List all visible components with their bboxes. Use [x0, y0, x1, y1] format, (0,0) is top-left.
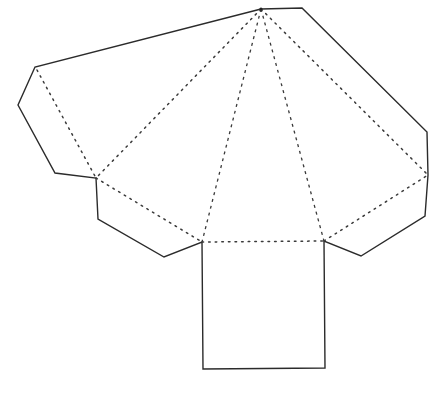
fold-line [324, 175, 428, 241]
fold-line [37, 70, 96, 178]
cut-line [18, 8, 428, 369]
fold-line [261, 9, 324, 241]
fold-line [96, 9, 261, 178]
fold-line [261, 9, 428, 175]
fold-line [202, 241, 324, 242]
fold-line [96, 178, 202, 242]
pyramid-net-diagram [0, 0, 438, 401]
fold-line [202, 9, 261, 242]
fold-lines [37, 9, 428, 242]
apex-point [259, 7, 262, 10]
cut-outline [18, 8, 428, 369]
